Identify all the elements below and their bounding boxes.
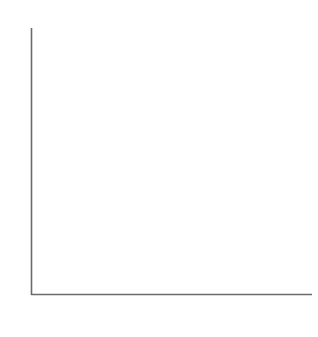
plot-area	[0, 0, 318, 337]
wage-rate-labor-supply-chart	[0, 0, 318, 337]
